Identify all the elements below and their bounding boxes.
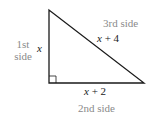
second-side-operation: + 2 bbox=[92, 85, 106, 97]
right-angle-marker bbox=[49, 76, 56, 83]
first-side-expression: x bbox=[37, 42, 42, 54]
second-side-name: 2nd side bbox=[78, 102, 115, 114]
third-side-expression: x + 4 bbox=[97, 32, 119, 44]
first-side-name-line1: 1st bbox=[13, 38, 33, 50]
third-side-operation: + 4 bbox=[105, 32, 119, 44]
second-side-variable: x bbox=[84, 85, 89, 97]
second-side-expression: x + 2 bbox=[84, 85, 106, 97]
right-triangle-diagram: 1st side x 3rd side x + 4 x + 2 2nd side bbox=[0, 0, 154, 117]
first-side-name-line2: side bbox=[13, 50, 33, 62]
first-side-name: 1st side bbox=[13, 38, 33, 62]
third-side-name: 3rd side bbox=[103, 17, 138, 29]
third-side-variable: x bbox=[97, 32, 102, 44]
